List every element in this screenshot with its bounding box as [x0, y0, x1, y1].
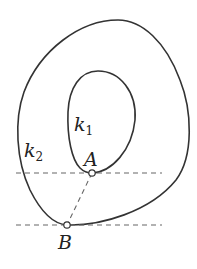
diagram-canvas: k1 k2 A B	[0, 0, 197, 269]
dashed-segment-AB	[67, 173, 92, 225]
label-k2: k2	[24, 139, 43, 164]
diagram-svg: k1 k2 A B	[0, 0, 197, 269]
point-B	[64, 222, 70, 228]
label-A: A	[82, 148, 98, 170]
point-A	[89, 170, 95, 176]
label-B: B	[57, 231, 72, 253]
curve-k2	[18, 20, 190, 225]
label-k1: k1	[74, 113, 93, 138]
